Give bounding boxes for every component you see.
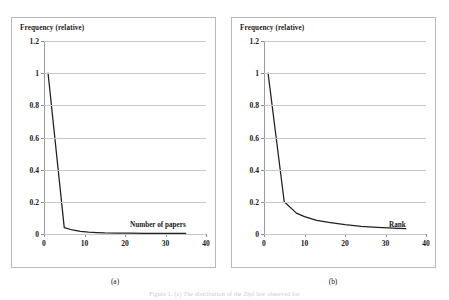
series-line-a — [48, 73, 186, 233]
plot-area-b: 010203040 Rank 00.20.40.60.811.2 — [264, 41, 426, 234]
gridline-y — [44, 73, 206, 74]
x-axis-title-b: Rank — [389, 221, 406, 229]
y-tick-mark — [41, 170, 44, 171]
y-tick-label: 0 — [35, 230, 39, 239]
y-tick-label: 1 — [35, 69, 39, 78]
x-tick-label: 40 — [202, 239, 210, 248]
gridline-y — [44, 234, 206, 235]
x-tick-label: 0 — [262, 239, 266, 248]
y-tick-mark — [261, 73, 264, 74]
x-tick-mark — [426, 234, 427, 237]
x-tick-label: 20 — [121, 239, 129, 248]
y-tick-label: 0.4 — [30, 165, 40, 174]
y-tick-label: 0.8 — [250, 101, 260, 110]
x-tick-label: 10 — [301, 239, 309, 248]
y-axis-title-a: Frequency (relative) — [20, 24, 84, 32]
x-axis-band-a: 010203040 — [44, 234, 206, 250]
y-tick-label: 1.2 — [250, 37, 260, 46]
x-tick-mark — [206, 234, 207, 237]
gridline-y — [44, 202, 206, 203]
y-tick-label: 0.4 — [250, 165, 260, 174]
y-tick-mark — [41, 234, 44, 235]
y-axis-title-b: Frequency (relative) — [240, 24, 304, 32]
x-tick-label: 30 — [162, 239, 170, 248]
y-tick-label: 0.2 — [30, 197, 40, 206]
figure-caption: Figure 1. (a) The distribution of the Zi… — [149, 291, 300, 297]
y-tick-mark — [41, 105, 44, 106]
x-tick-label: 0 — [42, 239, 46, 248]
y-tick-label: 0 — [255, 230, 259, 239]
y-tick-label: 0.2 — [250, 197, 260, 206]
y-tick-mark — [261, 138, 264, 139]
x-tick-label: 30 — [382, 239, 390, 248]
gridline-y — [264, 202, 426, 203]
x-tick-label: 40 — [422, 239, 430, 248]
subcaption-a: (a) — [111, 277, 119, 286]
gridline-y — [264, 41, 426, 42]
gridline-y — [264, 138, 426, 139]
gridline-y — [264, 73, 426, 74]
plot-area-a: 010203040 Number of papers 00.20.40.60.8… — [44, 41, 206, 234]
x-axis-title-a: Number of papers — [130, 221, 186, 229]
y-tick-label: 1.2 — [30, 37, 40, 46]
y-tick-label: 0.6 — [250, 133, 260, 142]
gridline-y — [44, 170, 206, 171]
y-tick-mark — [261, 202, 264, 203]
gridline-y — [264, 234, 426, 235]
gridline-y — [264, 105, 426, 106]
y-tick-label: 0.6 — [30, 133, 40, 142]
x-tick-label: 10 — [81, 239, 89, 248]
gridline-y — [44, 105, 206, 106]
x-axis-band-b: 010203040 — [264, 234, 426, 250]
gridline-y — [44, 138, 206, 139]
y-tick-mark — [261, 170, 264, 171]
gridline-y — [44, 41, 206, 42]
y-tick-mark — [261, 234, 264, 235]
y-tick-label: 1 — [255, 69, 259, 78]
y-tick-mark — [41, 202, 44, 203]
subcaption-b: (b) — [329, 277, 338, 286]
y-tick-mark — [41, 41, 44, 42]
y-tick-mark — [41, 73, 44, 74]
series-line-b — [268, 73, 406, 229]
y-tick-label: 0.8 — [30, 101, 40, 110]
x-tick-label: 20 — [341, 239, 349, 248]
gridline-y — [264, 170, 426, 171]
chart-panel-a: Frequency (relative) 010203040 Number of… — [11, 17, 216, 268]
figure-container: Frequency (relative) 010203040 Number of… — [0, 0, 449, 300]
y-tick-mark — [261, 41, 264, 42]
y-tick-mark — [261, 105, 264, 106]
chart-panel-b: Frequency (relative) 010203040 Rank 00.2… — [231, 17, 436, 268]
y-tick-mark — [41, 138, 44, 139]
